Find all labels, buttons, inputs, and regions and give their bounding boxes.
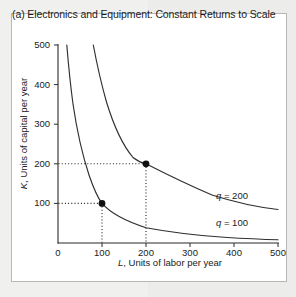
isoquant-curve-q100 <box>67 45 278 240</box>
x-tick-label-100: 100 <box>85 247 119 258</box>
data-point-q100 <box>99 200 106 207</box>
x-tick-label-500: 500 <box>261 247 295 258</box>
data-point-q200 <box>143 160 150 167</box>
isoquant-curve-q200 <box>93 45 278 210</box>
y-axis-title-var: K <box>18 183 29 189</box>
y-tick-label-500: 500 <box>20 39 50 50</box>
y-axis-title-rest: , Units of capital per year <box>18 78 29 183</box>
curve-label-q200: q = 200 <box>216 190 248 201</box>
curve-label-q200-rest: = 200 <box>221 190 248 201</box>
curve-label-q100-rest: = 100 <box>221 217 248 228</box>
x-axis-title-rest: , Units of labor per year <box>123 257 222 268</box>
x-tick-label-400: 400 <box>217 247 251 258</box>
x-axis-title: L, Units of labor per year <box>118 257 222 268</box>
y-axis-title: K, Units of capital per year <box>18 59 29 209</box>
curve-label-q100: q = 100 <box>216 217 248 228</box>
x-tick-label-0: 0 <box>41 247 75 258</box>
